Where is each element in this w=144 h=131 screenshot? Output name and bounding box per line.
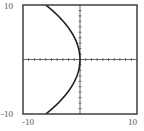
y-max-label: 10 xyxy=(4,2,13,11)
parabola-chart xyxy=(0,0,144,131)
x-max-label: 10 xyxy=(128,118,137,127)
x-min-label: -10 xyxy=(22,118,34,127)
y-min-label: -10 xyxy=(1,110,13,119)
